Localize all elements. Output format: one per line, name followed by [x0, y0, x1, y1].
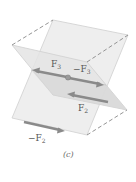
force-planes-diagram: F3 −F3 F2 −F2 (c): [0, 0, 136, 182]
label-neg-f2: −F2: [28, 133, 46, 144]
figure-caption: (c): [63, 150, 74, 159]
center-point: [65, 75, 70, 80]
